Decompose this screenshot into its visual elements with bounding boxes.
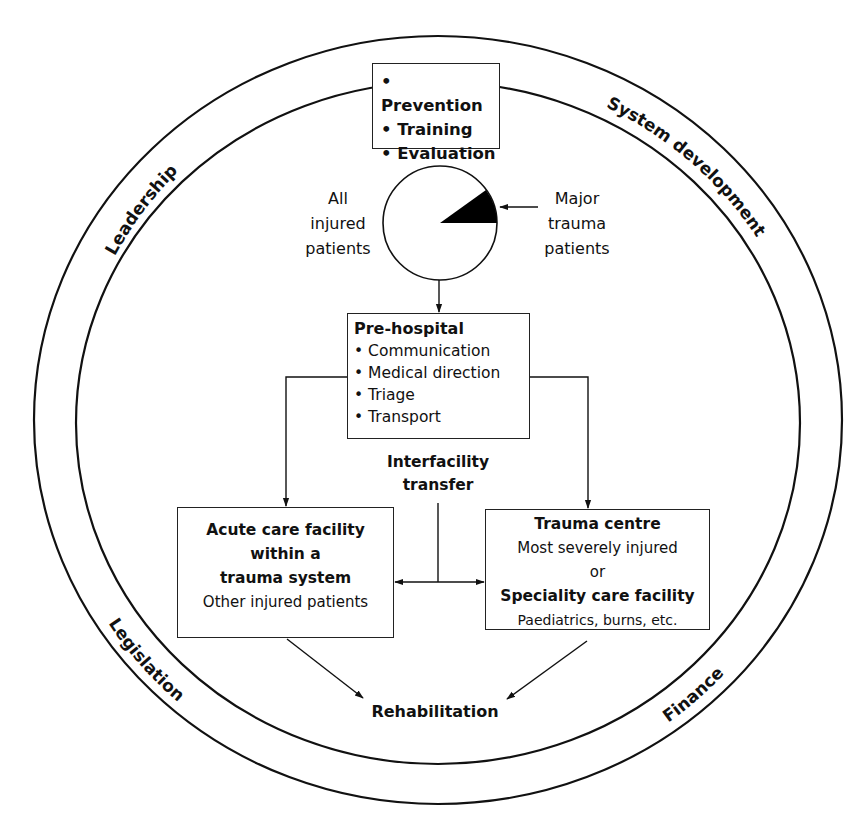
trauma-centre-subtitle: Most severely injured	[486, 536, 709, 560]
acute-care-title-line: within a	[178, 542, 393, 566]
speciality-care-subtitle: Paediatrics, burns, etc.	[486, 608, 709, 632]
prevention-training-evaluation-box: • Prevention • Training • Evaluation	[372, 63, 500, 149]
major-trauma-patients-label: Major trauma patients	[532, 186, 622, 261]
rehabilitation-label: Rehabilitation	[350, 702, 520, 721]
acute-care-facility-box: Acute care facility within a trauma syst…	[177, 507, 394, 638]
ring-label-system-development: System development	[604, 92, 770, 240]
prehospital-item: • Triage	[354, 384, 529, 406]
ring-label-leadership: Leadership	[101, 160, 181, 258]
prehospital-to-trauma-arrow	[530, 377, 588, 508]
speciality-care-title: Speciality care facility	[486, 584, 709, 608]
trauma-centre-box: Trauma centre Most severely injured or S…	[485, 509, 710, 630]
all-injured-patients-label: All injured patients	[293, 186, 383, 261]
prehospital-item: • Medical direction	[354, 362, 529, 384]
top-item-evaluation: • Evaluation	[381, 142, 499, 166]
trauma-centre-or: or	[486, 560, 709, 584]
acute-care-title-line: Acute care facility	[178, 518, 393, 542]
prehospital-box: Pre-hospital • Communication • Medical d…	[347, 313, 530, 439]
prehospital-title: Pre-hospital	[354, 318, 529, 340]
acute-care-subtitle: Other injured patients	[178, 590, 393, 614]
prehospital-to-acute-arrow	[286, 377, 347, 506]
trauma-centre-title: Trauma centre	[486, 512, 709, 536]
prehospital-item: • Transport	[354, 406, 529, 428]
interfacility-transfer-label: Interfacility transfer	[368, 451, 508, 497]
top-item-training: • Training	[381, 118, 499, 142]
acute-care-title-line: trauma system	[178, 566, 393, 590]
top-item-prevention: • Prevention	[381, 70, 499, 118]
prehospital-item: • Communication	[354, 340, 529, 362]
trauma-to-rehab-arrow	[507, 641, 587, 699]
acute-to-rehab-arrow	[287, 639, 363, 698]
